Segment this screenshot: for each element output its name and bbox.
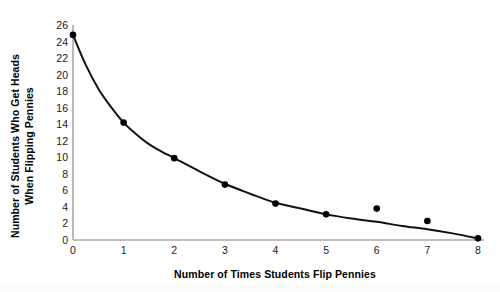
x-axis-tick-label: 1 — [109, 244, 139, 256]
x-axis-tick-label: 5 — [311, 244, 341, 256]
data-point — [120, 119, 127, 126]
chart-container: Number of Students Who Get Heads When Fl… — [0, 0, 500, 292]
data-point — [475, 235, 482, 242]
data-point — [222, 181, 229, 188]
x-axis-tick-label: 7 — [412, 244, 442, 256]
data-point — [272, 200, 279, 207]
x-axis-tick-label: 6 — [362, 244, 392, 256]
scan-artifact-strip — [0, 286, 500, 292]
x-axis-tick-label: 8 — [463, 244, 493, 256]
x-axis-tick-label: 4 — [261, 244, 291, 256]
x-axis-tick-label: 0 — [58, 244, 88, 256]
trend-line — [73, 35, 478, 238]
x-axis-tick-label: 3 — [210, 244, 240, 256]
data-point — [424, 218, 431, 225]
data-point — [323, 211, 330, 218]
x-axis-title: Number of Times Students Flip Pennies — [60, 268, 490, 280]
x-axis-tick-label: 2 — [159, 244, 189, 256]
data-point — [70, 32, 77, 39]
data-point-group — [70, 32, 482, 242]
data-point — [373, 205, 380, 212]
data-point — [171, 155, 178, 162]
